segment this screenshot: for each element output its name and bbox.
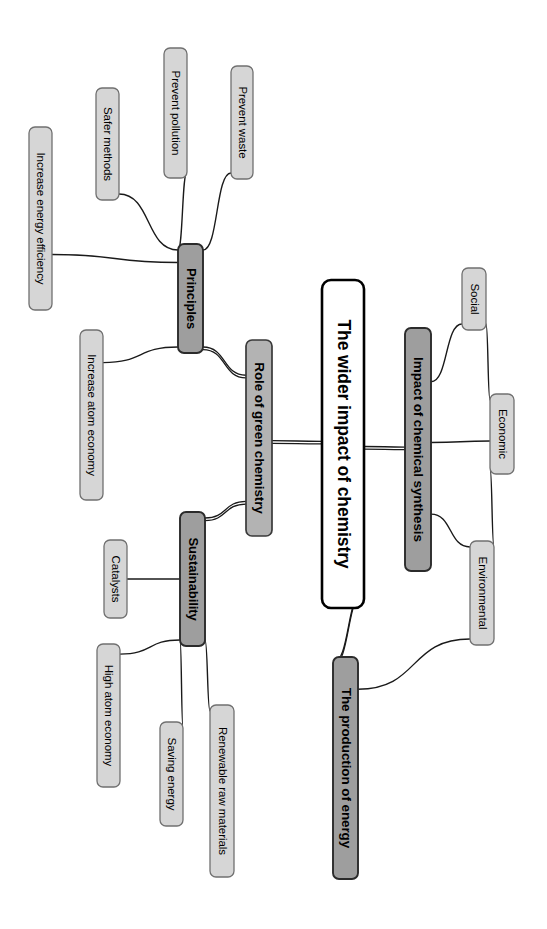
- node-safer-methods[interactable]: Safer methods: [96, 88, 119, 200]
- node-layer: The wider impact of chemistryRole of gre…: [29, 48, 514, 879]
- edge-environmental-to-production-of-energy: [358, 639, 470, 689]
- node-renewable-raw-materials[interactable]: Renewable raw materials: [210, 705, 234, 877]
- edge-principles-to-prevent-waste: [203, 173, 231, 250]
- node-label-high-atom-economy: High atom economy: [103, 665, 115, 767]
- node-label-environmental: Environmental: [477, 557, 489, 630]
- edge-sustainability-to-renewable-raw-materials: [205, 640, 210, 711]
- node-catalysts[interactable]: Catalysts: [104, 540, 127, 618]
- node-label-increase-energy-efficiency: Increase energy efficiency: [35, 152, 47, 284]
- node-label-economic: Economic: [497, 409, 509, 459]
- node-increase-atom-economy[interactable]: Increase atom economy: [80, 330, 103, 500]
- node-impact-of-chemical-synthesis[interactable]: Impact of chemical synthesis: [405, 328, 431, 571]
- node-role-of-green-chemistry[interactable]: Role of green chemistry: [246, 340, 272, 536]
- node-economic[interactable]: Economic: [490, 394, 514, 474]
- edge-principles-to-increase-atom-economy: [103, 347, 178, 363]
- edge-principles-to-increase-energy-efficiency: [52, 255, 178, 263]
- edge-economic-to-environmental: [490, 468, 494, 547]
- edge-central-to-impact-of-chemical-synthesis: [364, 446, 405, 447]
- node-high-atom-economy[interactable]: High atom economy: [97, 644, 120, 787]
- node-sustainability[interactable]: Sustainability: [180, 512, 205, 646]
- node-social[interactable]: Social: [462, 268, 486, 330]
- node-label-prevent-pollution: Prevent pollution: [170, 71, 182, 156]
- node-prevent-waste[interactable]: Prevent waste: [231, 66, 253, 179]
- edge-principles-to-prevent-pollution: [178, 172, 187, 250]
- node-label-principles: Principles: [184, 268, 199, 329]
- node-label-social: Social: [469, 283, 481, 314]
- node-label-role-of-green-chemistry: Role of green chemistry: [252, 362, 267, 514]
- node-label-increase-atom-economy: Increase atom economy: [86, 354, 98, 476]
- node-label-saving-energy: Saving energy: [166, 738, 178, 811]
- edge-sustainability-to-saving-energy: [180, 640, 183, 728]
- node-label-prevent-waste: Prevent waste: [237, 86, 249, 158]
- node-prevent-pollution[interactable]: Prevent pollution: [164, 48, 187, 178]
- node-principles[interactable]: Principles: [178, 244, 203, 353]
- node-label-catalysts: Catalysts: [110, 556, 122, 603]
- edge-central-to-role-of-green-chemistry-parallel: [272, 443, 322, 444]
- node-label-safer-methods: Safer methods: [102, 107, 114, 181]
- node-production-of-energy[interactable]: The production of energy: [333, 657, 358, 879]
- node-label-production-of-energy: The production of energy: [339, 688, 354, 849]
- edge-social-to-economic: [486, 324, 490, 400]
- edge-sustainability-to-high-atom-economy: [120, 640, 180, 654]
- edge-impact-of-chemical-synthesis-to-environmental: [431, 514, 470, 547]
- mind-map-svg: The wider impact of chemistryRole of gre…: [0, 0, 547, 929]
- node-central[interactable]: The wider impact of chemistry: [322, 280, 364, 608]
- node-increase-energy-efficiency[interactable]: Increase energy efficiency: [29, 127, 52, 310]
- edge-role-of-green-chemistry-to-principles: [203, 347, 246, 375]
- node-label-renewable-raw-materials: Renewable raw materials: [217, 727, 229, 855]
- node-environmental[interactable]: Environmental: [470, 541, 494, 645]
- edge-impact-of-chemical-synthesis-to-social: [431, 324, 462, 382]
- edge-central-to-impact-of-chemical-synthesis-parallel: [364, 449, 405, 450]
- node-label-impact-of-chemical-synthesis: Impact of chemical synthesis: [411, 357, 426, 542]
- node-label-sustainability: Sustainability: [186, 537, 201, 621]
- mind-map-canvas: The wider impact of chemistryRole of gre…: [0, 0, 547, 929]
- edge-principles-to-safer-methods: [119, 194, 178, 250]
- edge-central-to-role-of-green-chemistry: [272, 441, 322, 442]
- node-label-central: The wider impact of chemistry: [334, 320, 354, 569]
- node-saving-energy[interactable]: Saving energy: [160, 722, 183, 826]
- edge-impact-of-chemical-synthesis-to-economic: [431, 441, 490, 443]
- edge-role-of-green-chemistry-to-principles-parallel: [203, 350, 246, 378]
